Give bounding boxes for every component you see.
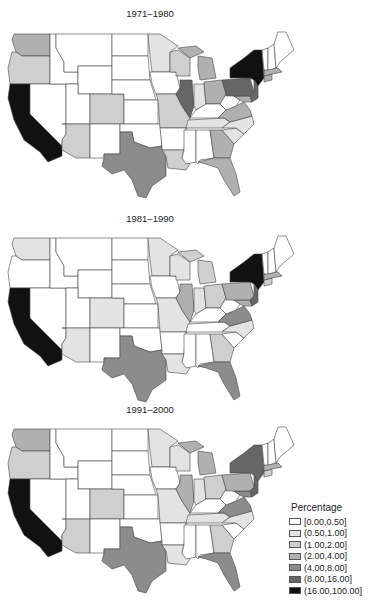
state-ar	[160, 128, 186, 150]
legend-swatch	[289, 518, 301, 525]
state-pa	[222, 282, 254, 300]
state-nd	[112, 34, 148, 56]
state-wy	[78, 66, 112, 94]
state-fl	[198, 158, 240, 196]
state-co	[90, 489, 124, 519]
state-nd	[112, 238, 148, 260]
legend-label: (16.00,100.00]	[304, 586, 362, 596]
state-ks	[124, 100, 158, 124]
state-wa	[12, 429, 50, 451]
legend-swatch	[289, 530, 301, 537]
us-map-1971-1980	[0, 28, 300, 203]
legend-label: (0.50,1.00]	[304, 528, 347, 538]
legend-item-2: (1.00,2.00]	[289, 539, 362, 551]
legend-swatch	[289, 576, 301, 583]
state-tn	[186, 118, 230, 128]
state-ar	[160, 332, 186, 354]
state-wy	[78, 270, 112, 298]
legend-item-5: (8.00,16.00]	[289, 574, 362, 586]
state-ia	[150, 467, 180, 489]
us-map-1981-1990	[0, 232, 300, 407]
state-nm	[90, 124, 120, 158]
state-fl	[198, 553, 240, 591]
us-map-1991-2000	[0, 423, 300, 598]
state-ms	[182, 334, 196, 368]
legend-label: (4.00,8.00]	[304, 563, 347, 573]
state-nm	[90, 328, 120, 362]
legend-swatch	[289, 541, 301, 548]
state-nm	[90, 519, 120, 553]
state-or	[8, 52, 50, 84]
state-me	[274, 32, 294, 68]
legend-label: (8.00,16.00]	[304, 574, 352, 584]
legend-swatch	[289, 553, 301, 560]
state-tn	[186, 513, 230, 523]
legend: Percentage [0.00,0.50] (0.50,1.00] (1.00…	[289, 502, 362, 597]
legend-swatch	[289, 587, 301, 594]
state-ia	[150, 72, 180, 94]
state-wy	[78, 461, 112, 489]
legend-swatch	[289, 564, 301, 571]
map-title-1971-1980: 1971–1980	[0, 8, 300, 19]
state-az	[62, 124, 90, 158]
state-wa	[12, 238, 50, 260]
state-ms	[182, 525, 196, 559]
legend-label: (2.00,4.00]	[304, 551, 347, 561]
state-pa	[222, 473, 254, 491]
legend-label: [0.00,0.50]	[304, 517, 347, 527]
legend-item-4: (4.00,8.00]	[289, 562, 362, 574]
legend-label: (1.00,2.00]	[304, 540, 347, 550]
state-me	[274, 427, 294, 463]
state-co	[90, 298, 124, 328]
state-ar	[160, 523, 186, 545]
map-title-1981-1990: 1981–1990	[0, 213, 300, 224]
legend-item-0: [0.00,0.50]	[289, 516, 362, 528]
state-az	[62, 519, 90, 553]
legend-item-3: (2.00,4.00]	[289, 551, 362, 563]
map-title-1991-2000: 1991–2000	[0, 404, 300, 415]
legend-item-1: (0.50,1.00]	[289, 528, 362, 540]
state-nd	[112, 429, 148, 451]
state-wa	[12, 34, 50, 56]
state-az	[62, 328, 90, 362]
state-ks	[124, 495, 158, 519]
state-ks	[124, 304, 158, 328]
legend-title: Percentage	[291, 502, 362, 513]
state-or	[8, 256, 50, 288]
legend-item-6: (16.00,100.00]	[289, 585, 362, 597]
state-co	[90, 94, 124, 124]
state-or	[8, 447, 50, 479]
state-pa	[222, 78, 254, 96]
state-me	[274, 236, 294, 272]
state-fl	[198, 362, 240, 400]
state-sd	[112, 451, 150, 475]
state-ms	[182, 130, 196, 164]
state-tn	[186, 322, 230, 332]
state-sd	[112, 56, 150, 80]
state-sd	[112, 260, 150, 284]
state-ia	[150, 276, 180, 298]
